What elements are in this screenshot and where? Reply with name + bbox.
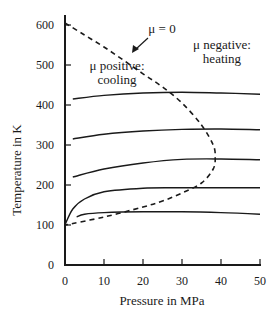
y-axis-label: Temperature in K — [9, 124, 24, 216]
x-tick-label: 20 — [137, 274, 149, 288]
isenthalp-curve — [77, 212, 260, 217]
isenthalp-curve — [73, 129, 260, 139]
chart: 01020304050 0100200300400500600 Pressure… — [0, 0, 279, 321]
y-tick-label: 200 — [36, 178, 54, 192]
negative-label-line2: heating — [203, 51, 242, 66]
x-axis-label: Pressure in MPa — [119, 293, 204, 308]
y-tick-label: 0 — [48, 258, 54, 272]
positive-label-line2: cooling — [98, 72, 137, 87]
arrow-head-icon — [132, 45, 139, 53]
isenthalp-curve — [73, 159, 260, 177]
inversion-curve — [65, 23, 215, 225]
x-tick-label: 40 — [215, 274, 227, 288]
x-tick-label: 30 — [176, 274, 188, 288]
positive-label-line1: μ positive: — [90, 58, 145, 73]
isenthalp-curve — [73, 92, 260, 99]
x-tick-label: 10 — [98, 274, 110, 288]
y-tick-label: 600 — [36, 18, 54, 32]
mu-zero-arrow — [136, 38, 148, 49]
y-tick-label: 500 — [36, 58, 54, 72]
mu-zero-label: μ = 0 — [148, 21, 175, 36]
y-tick-label: 300 — [36, 138, 54, 152]
x-tick-label: 50 — [254, 274, 266, 288]
x-ticks: 01020304050 — [62, 259, 266, 288]
y-tick-label: 400 — [36, 98, 54, 112]
x-tick-label: 0 — [62, 274, 68, 288]
negative-label-line1: μ negative: — [193, 37, 251, 52]
y-tick-label: 100 — [36, 218, 54, 232]
